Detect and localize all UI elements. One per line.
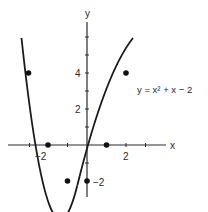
point-2-4 bbox=[123, 70, 129, 76]
tick-label-x-2: 2 bbox=[123, 151, 129, 162]
point-neg1-neg2 bbox=[65, 178, 71, 184]
point-neg3-4 bbox=[26, 70, 32, 76]
tick-label-y-2: 2 bbox=[75, 104, 81, 115]
tick-label-y-4: 4 bbox=[75, 68, 81, 79]
tick-label-x-neg2: −2 bbox=[35, 151, 47, 162]
point-neg2-0 bbox=[45, 142, 51, 148]
parabola-plot: y x −2 2 4 2 −2 y = x² + x − 2 bbox=[0, 0, 208, 212]
data-points bbox=[26, 70, 129, 184]
parabola-curve bbox=[22, 38, 78, 212]
equation-label: y = x² + x − 2 bbox=[137, 84, 192, 95]
point-0-neg2 bbox=[84, 178, 90, 184]
point-1-0 bbox=[104, 142, 110, 148]
x-axis-label: x bbox=[170, 140, 175, 151]
y-axis-label: y bbox=[85, 8, 90, 19]
tick-label-y-neg2: −2 bbox=[93, 177, 105, 188]
